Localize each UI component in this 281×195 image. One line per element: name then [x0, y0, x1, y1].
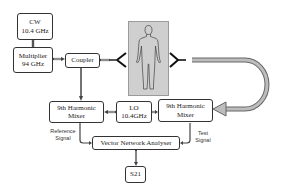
- rx-horn-icon: [170, 53, 186, 67]
- human-body-icon: [129, 22, 168, 95]
- test-signal-line2: Signal: [193, 137, 213, 144]
- cw-label: CW: [29, 18, 40, 27]
- coupler-label: Coupler: [71, 56, 94, 65]
- edge-mixer-test-vna: [180, 123, 190, 145]
- cw-source-box[interactable]: CW 10.4 GHz: [17, 13, 53, 40]
- edge-multiplier-coupler: [53, 57, 65, 61]
- multiplier-label: Multiplier: [19, 52, 47, 61]
- mixer-reference-line1: 9th Harmonic: [57, 104, 96, 113]
- edge-mixer-ref-vna: [80, 123, 92, 145]
- mixer-reference-box[interactable]: 9th Harmonic Mixer: [49, 101, 104, 123]
- mixer-test-line1: 9th Harmonic: [166, 102, 205, 111]
- vna-label: Vector Network Analyser: [100, 139, 171, 148]
- mixer-test-box[interactable]: 9th Harmonic Mixer: [158, 99, 213, 122]
- reference-signal-label: Reference Signal: [48, 128, 78, 141]
- cw-frequency: 10.4 GHz: [21, 27, 48, 36]
- edge-vna-s21: [134, 150, 138, 166]
- lo-box[interactable]: LO 10.4GHz: [116, 101, 152, 123]
- mixer-test-line2: Mixer: [177, 111, 194, 120]
- lo-label: LO: [129, 104, 138, 113]
- test-signal-label: Test Signal: [193, 130, 213, 143]
- subject-panel: [128, 21, 169, 96]
- multiplier-box[interactable]: Multiplier 94 GHz: [13, 47, 53, 73]
- reference-signal-line1: Reference: [48, 128, 78, 135]
- reference-signal-line2: Signal: [48, 135, 78, 142]
- multiplier-frequency: 94 GHz: [22, 60, 44, 69]
- vna-box[interactable]: Vector Network Analyser: [92, 136, 180, 150]
- edge-coupler-mixer-ref: [79, 68, 83, 101]
- mixer-reference-line2: Mixer: [68, 112, 85, 121]
- edge-lo-mixer-ref: [104, 110, 116, 114]
- tx-horn-icon: [117, 53, 126, 67]
- s21-label: S21: [130, 170, 141, 179]
- coupler-box[interactable]: Coupler: [65, 53, 100, 68]
- s21-box[interactable]: S21: [125, 166, 146, 183]
- lo-frequency: 10.4GHz: [121, 112, 146, 121]
